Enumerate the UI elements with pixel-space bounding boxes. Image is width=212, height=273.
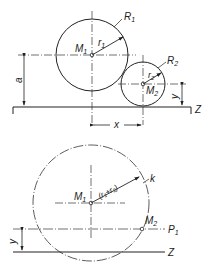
svg-text:k: k (150, 173, 156, 184)
svg-text:M1: M1 (74, 191, 86, 203)
svg-text:x: x (113, 119, 120, 130)
top-figure: Z R1 r1 M1 R2 r2 M2 a y x (13, 11, 202, 130)
label-z-top: Z (194, 104, 202, 115)
svg-text:y: y (7, 238, 18, 245)
svg-text:a: a (13, 77, 24, 83)
svg-text:P1: P1 (168, 224, 179, 236)
construction-diagram: Z R1 r1 M1 R2 r2 M2 a y x (0, 0, 212, 273)
svg-text:R1: R1 (124, 11, 135, 23)
svg-text:y: y (169, 93, 180, 100)
svg-text:R2: R2 (167, 55, 178, 67)
svg-text:M1: M1 (75, 43, 87, 55)
svg-text:M2: M2 (145, 215, 157, 227)
bottom-figure: k (r₁+r₂) M1 P1 M2 Z y (7, 145, 179, 261)
svg-text:r1: r1 (98, 37, 105, 49)
svg-text:r2: r2 (148, 70, 155, 81)
svg-text:Z: Z (167, 247, 175, 258)
svg-text:(r₁+r₂): (r₁+r₂) (97, 183, 120, 201)
svg-text:M2: M2 (146, 85, 158, 97)
